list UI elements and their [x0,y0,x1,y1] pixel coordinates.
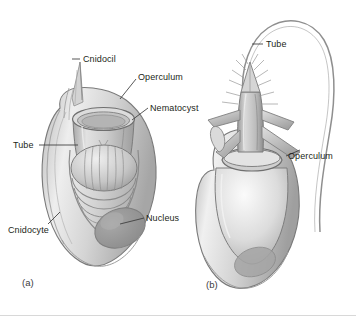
label-nematocyst: Nematocyst [150,104,199,113]
label-cnidocyte: Cnidocyte [8,226,49,235]
panel-a-artwork [42,62,156,266]
label-nucleus: Nucleus [146,214,179,223]
label-cnidocil: Cnidocil [83,55,116,64]
panel-label-b: (b) [206,279,218,290]
label-operculum-b: Operculum [288,152,333,161]
label-tube-b: Tube [266,40,287,49]
label-operculum-a: Operculum [138,73,183,82]
panel-label-a: (a) [22,277,34,288]
figure-cnidocyte-diagram: Cnidocil Operculum Nematocyst Tube Cnido… [0,0,356,316]
label-tube-a: Tube [13,141,34,150]
